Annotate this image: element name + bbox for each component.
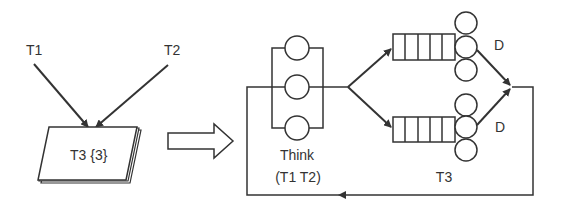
think-server-3 xyxy=(285,116,309,140)
think-server-2 xyxy=(285,75,309,99)
disk-station-top xyxy=(393,12,477,81)
disk-label-bottom: D xyxy=(495,120,505,134)
think-station xyxy=(272,36,348,140)
think-label: Think xyxy=(280,148,314,162)
think-classes-label: (T1 T2) xyxy=(275,170,321,184)
block-arrow-right-icon xyxy=(168,124,233,158)
left-model xyxy=(34,64,168,183)
class-label-t3: T3 xyxy=(436,170,452,184)
think-server-1 xyxy=(285,36,309,60)
return-arrow-icon xyxy=(338,191,346,199)
document-stack-label: T3 {3} xyxy=(70,148,107,162)
input-label-t2: T2 xyxy=(164,43,180,57)
disk-station-bottom xyxy=(393,94,477,161)
t2-arrow xyxy=(96,65,168,127)
t1-arrow xyxy=(34,64,88,127)
input-label-t1: T1 xyxy=(26,43,42,57)
disk-label-top: D xyxy=(494,38,504,52)
